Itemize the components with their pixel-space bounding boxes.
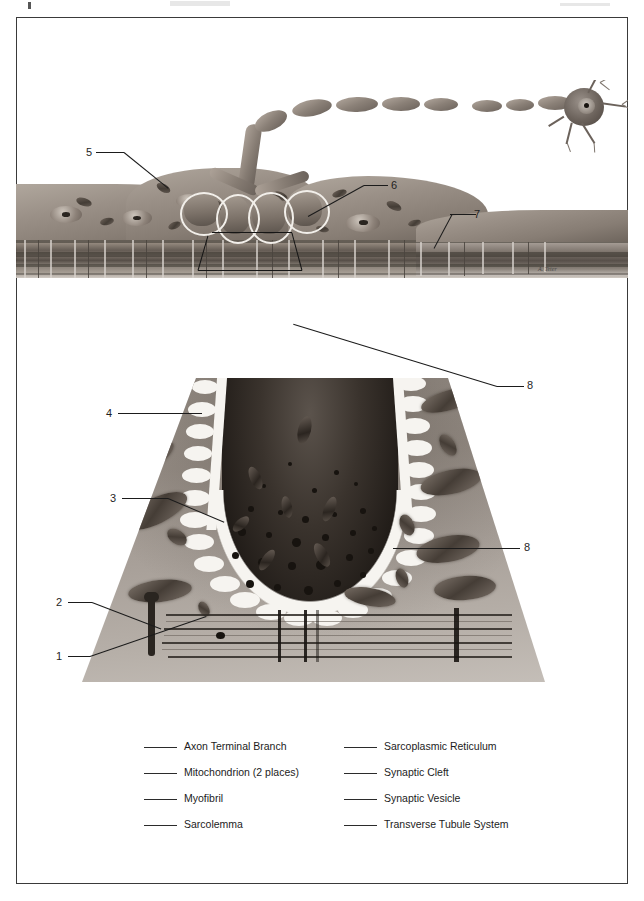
- muscle-nucleus: [346, 214, 380, 232]
- z-line-striation: [192, 236, 194, 278]
- myofibril-filament: [166, 621, 512, 622]
- z-line-striation: [146, 236, 147, 278]
- nucleolus: [62, 212, 70, 216]
- nucleolus: [359, 220, 368, 225]
- synaptic-vesicle: [334, 580, 341, 587]
- legend-item[interactable]: Synaptic Cleft: [344, 752, 594, 778]
- junctional-fold: [194, 556, 224, 572]
- top-illustration-neuromuscular-overview: A. Teter: [16, 80, 628, 295]
- dendrite: [622, 104, 628, 111]
- synaptic-vesicle: [372, 526, 377, 531]
- nucleolus: [133, 216, 141, 220]
- junctional-fold: [396, 376, 426, 391]
- scan-artifact: [170, 1, 230, 6]
- soma-nucleolus: [584, 103, 589, 108]
- callout-number-8-upper: 8: [527, 380, 533, 391]
- myelin-segment: [472, 100, 502, 112]
- legend-answer-blank[interactable]: [144, 747, 177, 748]
- callout-number-6: 6: [391, 180, 397, 191]
- callout-number-2: 2: [56, 597, 62, 608]
- synaptic-vesicle: [312, 488, 317, 493]
- legend-item-label: Sarcoplasmic Reticulum: [384, 740, 497, 752]
- dendrite: [600, 82, 610, 90]
- legend-answer-blank[interactable]: [344, 773, 377, 774]
- z-line: [278, 610, 281, 662]
- z-line-striation: [162, 236, 164, 278]
- synaptic-vesicle: [354, 482, 358, 486]
- synaptic-vesicle: [322, 534, 329, 541]
- synaptic-vesicle: [368, 548, 374, 554]
- myofibril-filament: [168, 656, 512, 658]
- myelin-segment: [382, 97, 420, 111]
- junctional-fold: [188, 402, 216, 417]
- dendrite: [548, 116, 564, 127]
- z-line-striation: [88, 236, 89, 278]
- junctional-fold: [192, 380, 218, 394]
- synaptic-vesicle: [302, 516, 309, 523]
- z-line-striation: [50, 236, 52, 278]
- magnification-box-edge: [198, 270, 302, 271]
- z-line-striation: [38, 236, 39, 278]
- legend-column-left: Axon Terminal Branch Mitochondrion (2 pl…: [144, 726, 374, 830]
- junctional-fold: [184, 446, 212, 461]
- callout-number-5: 5: [86, 147, 92, 158]
- dendrite: [593, 143, 595, 153]
- junctional-fold: [402, 440, 432, 456]
- legend-item-label: Myofibril: [184, 792, 223, 804]
- muscle-nucleus: [122, 210, 152, 226]
- legend-item[interactable]: Sarcoplasmic Reticulum: [344, 726, 594, 752]
- junctional-fold: [284, 610, 314, 626]
- z-line-striation: [388, 236, 390, 278]
- callout-leader-1: [68, 656, 90, 657]
- synaptic-vesicle: [288, 462, 292, 466]
- z-line-striation: [528, 242, 529, 274]
- junctional-fold: [186, 424, 214, 439]
- legend-answer-blank[interactable]: [344, 747, 377, 748]
- figure-page: A. Teter 5 6 7: [0, 0, 644, 901]
- z-line: [304, 610, 307, 662]
- legend-answer-blank[interactable]: [144, 799, 177, 800]
- legend-item-label: Sarcolemma: [184, 818, 243, 830]
- synaptic-vesicle: [334, 470, 339, 475]
- legend-item-label: Synaptic Cleft: [384, 766, 449, 778]
- z-line-striation: [354, 236, 356, 278]
- myofibril-filament: [164, 628, 512, 630]
- legend-item-label: Axon Terminal Branch: [184, 740, 287, 752]
- legend-item[interactable]: Sarcolemma: [144, 804, 374, 830]
- legend-answer-blank[interactable]: [344, 799, 377, 800]
- legend-answer-blank[interactable]: [144, 773, 177, 774]
- z-line-striation: [448, 240, 450, 276]
- legend: Axon Terminal Branch Mitochondrion (2 pl…: [16, 726, 628, 836]
- synaptic-vesicle: [346, 554, 353, 561]
- artist-signature: A. Teter: [538, 266, 557, 272]
- synaptic-vesicle: [360, 508, 366, 514]
- synaptic-vesicle: [360, 572, 366, 578]
- myofibril-filament: [162, 642, 512, 644]
- legend-answer-blank[interactable]: [344, 825, 377, 826]
- dendrite: [566, 123, 573, 145]
- magnification-box-edge: [212, 232, 292, 233]
- legend-item[interactable]: Axon Terminal Branch: [144, 726, 374, 752]
- z-line-striation: [74, 236, 76, 278]
- legend-item[interactable]: Mitochondrion (2 places): [144, 752, 374, 778]
- legend-answer-blank[interactable]: [144, 825, 177, 826]
- z-line-striation: [420, 240, 422, 276]
- synaptic-vesicle: [292, 538, 301, 547]
- myelin-segment: [291, 97, 333, 120]
- z-line-striation: [132, 236, 134, 278]
- legend-item[interactable]: Synaptic Vesicle: [344, 778, 594, 804]
- callout-leader-3: [122, 498, 168, 499]
- z-line-striation: [256, 236, 258, 278]
- synaptic-vesicle: [248, 506, 254, 512]
- myelin-segment: [506, 99, 534, 111]
- legend-item[interactable]: Transverse Tubule System: [344, 804, 594, 830]
- scan-artifact: [28, 2, 31, 9]
- z-line-striation: [222, 236, 224, 278]
- dendrite: [581, 122, 595, 143]
- callout-leader-8-lower: [393, 548, 520, 549]
- junctional-fold: [400, 418, 430, 434]
- myofibril-filament: [166, 614, 512, 616]
- transverse-tubule: [144, 592, 159, 602]
- myelin-segment: [424, 98, 458, 111]
- legend-item[interactable]: Myofibril: [144, 778, 374, 804]
